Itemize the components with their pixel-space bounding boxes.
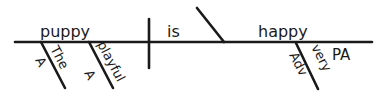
verb-word: is — [167, 22, 180, 41]
complement-word: happy — [258, 22, 308, 41]
complement-slant-line — [197, 8, 224, 42]
modifier-tag-playful: A — [81, 67, 98, 82]
modifier-tag-the: A — [32, 54, 49, 69]
complement-tag: PA — [332, 46, 351, 64]
modifier-word-very: very — [308, 42, 335, 75]
modifier-tag-very: Adv — [286, 50, 311, 79]
subject-word: puppy — [40, 22, 90, 41]
sentence-diagram: puppy is happy PA The A playful A very A… — [0, 0, 384, 99]
modifier-word-the: The — [47, 42, 72, 71]
